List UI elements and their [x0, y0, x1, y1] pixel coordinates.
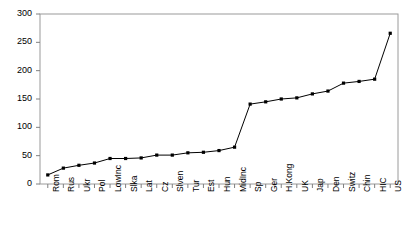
- data-point-marker: [326, 89, 329, 92]
- x-tick-label: Hun: [223, 176, 232, 192]
- x-tick-label: H.Kong: [285, 164, 294, 192]
- data-point-marker: [108, 157, 111, 160]
- y-tick-label: 150: [0, 94, 32, 103]
- line-chart: 050100150200250300 RomRusUkrPolLowIncSlk…: [0, 0, 412, 247]
- data-point-marker: [124, 157, 127, 160]
- data-point-marker: [249, 103, 252, 106]
- data-point-marker: [295, 96, 298, 99]
- y-tick-label: 100: [0, 122, 32, 131]
- data-point-marker: [93, 161, 96, 164]
- data-point-marker: [202, 151, 205, 154]
- x-tick-label: Jap: [316, 178, 325, 192]
- x-tick-label: Ukr: [83, 179, 92, 192]
- y-axis-ticks: [36, 14, 40, 184]
- data-point-marker: [62, 167, 65, 170]
- x-tick-label: UK: [301, 180, 310, 192]
- plot-frame: [40, 14, 398, 184]
- x-tick-label: LowInc: [114, 165, 123, 192]
- x-tick-label: Sp: [254, 182, 263, 192]
- data-point-marker: [280, 97, 283, 100]
- x-tick-label: Lat: [145, 180, 154, 192]
- data-point-marker: [373, 78, 376, 81]
- x-tick-label: Pol: [98, 180, 107, 192]
- x-tick-label: Chin: [363, 175, 372, 192]
- x-tick-label: Est: [207, 180, 216, 192]
- y-tick-label: 0: [0, 179, 32, 188]
- data-point-marker: [342, 82, 345, 85]
- x-tick-label: Ger: [270, 178, 279, 192]
- x-tick-label: Slka: [130, 175, 139, 192]
- x-tick-label: Den: [332, 176, 341, 192]
- data-point-marker: [357, 80, 360, 83]
- x-tick-label: US: [394, 180, 403, 192]
- data-point-marker: [140, 156, 143, 159]
- x-tick-label: MidInc: [239, 167, 248, 192]
- y-tick-label: 300: [0, 9, 32, 18]
- data-point-marker: [264, 100, 267, 103]
- y-tick-label: 50: [0, 151, 32, 160]
- x-tick-label: Cz: [161, 182, 170, 192]
- y-tick-label: 200: [0, 66, 32, 75]
- data-point-marker: [186, 151, 189, 154]
- x-tick-label: Rom: [52, 174, 61, 192]
- data-point-marker: [171, 154, 174, 157]
- data-point-marker: [389, 32, 392, 35]
- data-point-marker: [233, 146, 236, 149]
- data-point-marker: [46, 173, 49, 176]
- x-tick-label: Switz: [348, 172, 357, 192]
- data-point-marker: [217, 149, 220, 152]
- y-tick-label: 250: [0, 37, 32, 46]
- x-tick-label: Tur: [192, 180, 201, 192]
- x-tick-label: Rus: [67, 177, 76, 192]
- x-tick-label: HIC: [379, 177, 388, 192]
- data-point-marker: [155, 154, 158, 157]
- data-point-marker: [311, 92, 314, 95]
- x-tick-label: Slven: [176, 171, 185, 192]
- plot-area: [0, 0, 412, 247]
- data-point-marker: [77, 164, 80, 167]
